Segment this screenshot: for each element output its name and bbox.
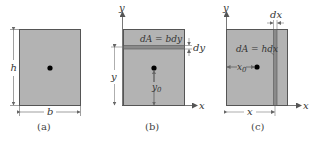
dx-dimension (267, 20, 284, 29)
figure-c: y x dA = hdx dx x0 x (c) (222, 2, 309, 132)
element-area-label: dA = hdx (236, 44, 278, 54)
x-axis-label: x (303, 100, 309, 111)
strip-position-label: x (247, 106, 253, 117)
vertical-strip-element (274, 30, 278, 106)
dy-label: dy (193, 42, 205, 53)
caption-a: (a) (37, 121, 51, 132)
y-axis-label: y (222, 2, 229, 13)
figure-b: y x dA = bdy dy y y0 (b) (110, 2, 205, 132)
centroid-dot (47, 65, 52, 70)
centroid-diagram: h b (a) y x dA = bdy dy (0, 0, 317, 145)
caption-c: (c) (251, 121, 265, 132)
figure-a: h b (a) (10, 30, 81, 133)
width-label: b (47, 106, 53, 117)
y-axis-label: y (118, 2, 125, 13)
dy-dimension (185, 38, 192, 56)
dx-label: dx (270, 9, 282, 20)
horizontal-strip-element (124, 46, 185, 50)
element-area-label: dA = bdy (140, 34, 183, 44)
x-axis-label: x (199, 100, 205, 111)
centroid-dot (151, 65, 156, 70)
height-label: h (11, 62, 17, 73)
caption-b: (b) (145, 121, 159, 132)
centroid-dot (254, 64, 259, 69)
strip-position-label: y (110, 71, 117, 82)
